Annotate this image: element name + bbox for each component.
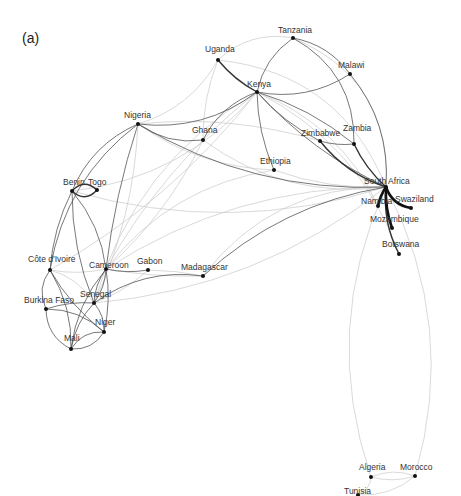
node-label-cote_divoire: Côte d'Ivoire	[28, 254, 76, 264]
node-label-mozambique: Mozambique	[370, 214, 419, 224]
node-benin	[70, 189, 74, 193]
node-mali	[69, 347, 73, 351]
node-label-mali: Mali	[64, 333, 80, 343]
node-label-senegal: Senegal	[80, 289, 111, 299]
node-niger	[102, 330, 106, 334]
node-zimbabwe	[318, 139, 322, 143]
node-nigeria	[136, 122, 140, 126]
node-uganda	[216, 58, 220, 62]
node-label-niger: Niger	[95, 317, 115, 327]
edge-kenya-botswana	[257, 92, 399, 254]
edge-kenya-south_africa	[257, 92, 386, 187]
edge-algeria-morocco	[371, 472, 415, 477]
node-kenya	[255, 90, 259, 94]
node-label-swaziland: Swaziland	[395, 194, 434, 204]
node-mozambique	[390, 226, 394, 230]
node-label-benin: Benin	[63, 177, 85, 187]
node-label-nigeria: Nigeria	[124, 110, 151, 120]
edge-south_africa-madagascar	[203, 187, 386, 276]
node-label-cameroon: Cameroon	[89, 260, 129, 270]
node-label-gabon: Gabon	[137, 256, 163, 266]
node-label-zimbabwe: Zimbabwe	[301, 128, 340, 138]
node-label-burkina_faso: Burkina Faso	[24, 295, 74, 305]
node-label-kenya: Kenya	[247, 79, 271, 89]
node-gabon	[146, 268, 150, 272]
node-burkina_faso	[44, 307, 48, 311]
node-label-algeria: Algeria	[359, 462, 386, 472]
labels-layer: TanzaniaUgandaMalawiKenyaNigeriaGhanaZim…	[24, 25, 434, 496]
node-tanzania	[291, 36, 295, 40]
node-label-ethiopia: Ethiopia	[260, 156, 291, 166]
node-label-south_africa: South Africa	[364, 176, 410, 186]
node-algeria	[369, 475, 373, 479]
node-senegal	[92, 301, 96, 305]
node-label-morocco: Morocco	[400, 462, 433, 472]
edge-south_africa-morocco	[386, 187, 431, 476]
edge-benin-cameroon	[72, 191, 106, 269]
node-label-zambia: Zambia	[343, 123, 372, 133]
edge-ghana-cameroon	[106, 140, 203, 269]
edge-madagascar-south_africa	[203, 187, 386, 276]
node-ghana	[201, 138, 205, 142]
edge-kenya-nigeria	[138, 92, 257, 125]
edge-algeria-morocco	[371, 476, 415, 480]
node-togo	[95, 188, 99, 192]
node-malawi	[348, 72, 352, 76]
node-morocco	[413, 474, 417, 478]
node-madagascar	[201, 274, 205, 278]
node-label-madagascar: Madagascar	[181, 262, 228, 272]
node-label-botswana: Botswana	[382, 239, 420, 249]
edge-nigeria-cameroon	[106, 124, 138, 269]
node-botswana	[397, 252, 401, 256]
edge-burkina_faso-mali	[46, 309, 71, 349]
node-zambia	[352, 142, 356, 146]
node-label-malawi: Malawi	[338, 60, 365, 70]
node-label-ghana: Ghana	[192, 125, 218, 135]
node-cote_divoire	[48, 268, 52, 272]
node-swaziland	[409, 206, 413, 210]
node-label-namibia: Namibia	[361, 196, 392, 206]
edge-south_africa-algeria	[349, 187, 386, 477]
node-label-uganda: Uganda	[205, 44, 235, 54]
node-ethiopia	[272, 168, 276, 172]
node-label-tunisia: Tunisia	[344, 486, 371, 496]
node-label-togo: Togo	[88, 177, 107, 187]
network-diagram: TanzaniaUgandaMalawiKenyaNigeriaGhanaZim…	[0, 0, 461, 496]
node-label-tanzania: Tanzania	[278, 25, 312, 35]
edge-zimbabwe-zambia	[320, 141, 354, 145]
edge-benin-senegal	[72, 191, 94, 303]
